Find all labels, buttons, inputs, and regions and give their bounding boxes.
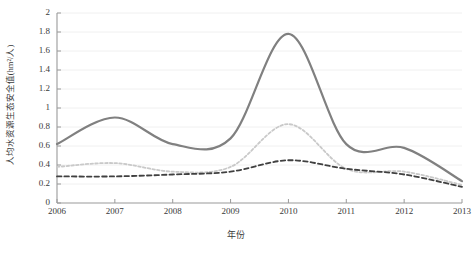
series-line-dashed (57, 160, 462, 187)
x-axis-tick-label: 2009 (222, 206, 240, 216)
x-axis-tick-label: 2013 (453, 206, 471, 216)
y-axis-tick-label: 0.2 (39, 179, 50, 188)
y-axis-tick-label: 1 (46, 103, 51, 112)
x-axis-title: 年份 (0, 228, 472, 241)
y-axis-tick-label: 0.6 (39, 141, 50, 150)
y-axis-tick-label: 2 (46, 8, 51, 17)
x-axis-tick-label: 2007 (106, 206, 124, 216)
y-axis-tick-label: 1.2 (39, 84, 50, 93)
series-lines (57, 34, 462, 187)
y-axis-tick-label: 0.8 (39, 122, 50, 131)
y-axis-tick-label: 0.4 (39, 160, 50, 169)
gridlines (57, 13, 462, 184)
x-axis-tick-label: 2006 (48, 206, 66, 216)
x-axis-tick-labels: 20062007200820092010201120122013 (0, 206, 472, 224)
x-axis-tick-label: 2011 (337, 206, 355, 216)
y-axis-tick-label: 1.4 (39, 65, 50, 74)
y-axis-tick-label: 1.8 (39, 27, 50, 36)
chart-figure: 人均水资源生态安全值(hm²/人) 00.20.40.60.811.21.41.… (0, 0, 472, 256)
y-axis-tick-labels: 00.20.40.60.811.21.41.61.82 (18, 0, 54, 210)
x-axis-tick-label: 2010 (279, 206, 297, 216)
y-axis-tick-label: 1.6 (39, 46, 50, 55)
x-axis-tick-label: 2008 (164, 206, 182, 216)
x-axis-tick-label: 2012 (395, 206, 413, 216)
